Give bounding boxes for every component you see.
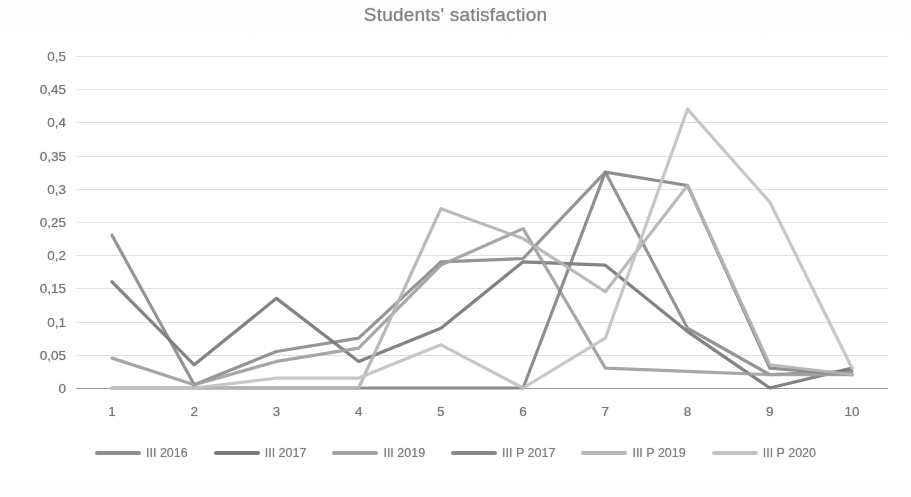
- legend-line-swatch: [95, 451, 141, 454]
- x-axis-tick-label: 9: [766, 404, 774, 419]
- legend-item-label: III P 2019: [632, 446, 685, 460]
- chart-legend: III 2016III 2017III 2019III P 2017III P …: [0, 446, 911, 460]
- y-axis-tick-label: 0,1: [47, 314, 66, 329]
- x-axis: 12345678910: [0, 398, 911, 428]
- x-axis-tick-label: 7: [602, 404, 610, 419]
- y-axis-tick-label: 0,35: [40, 148, 66, 163]
- y-axis-tick-label: 0,4: [47, 115, 66, 130]
- y-axis-tick-label: 0: [58, 381, 66, 396]
- y-axis-tick-label: 0,05: [40, 347, 66, 362]
- legend-item[interactable]: III P 2017: [451, 446, 555, 460]
- x-axis-tick-label: 4: [355, 404, 363, 419]
- legend-item[interactable]: III P 2019: [581, 446, 685, 460]
- legend-item[interactable]: III 2016: [95, 446, 188, 460]
- legend-line-swatch: [332, 451, 378, 454]
- series-line: [112, 262, 852, 388]
- legend-item-label: III 2019: [383, 446, 425, 460]
- chart-title: Students' satisfaction: [0, 4, 911, 26]
- chart-container: Students' satisfaction 0,50,450,40,350,3…: [0, 0, 911, 497]
- legend-line-swatch: [712, 451, 758, 454]
- legend-item-label: III 2016: [146, 446, 188, 460]
- legend-item-label: III P 2017: [502, 446, 555, 460]
- x-axis-tick-label: 2: [190, 404, 198, 419]
- legend-item-label: III P 2020: [763, 446, 816, 460]
- legend-line-swatch: [581, 451, 627, 454]
- x-axis-tick-label: 8: [684, 404, 692, 419]
- x-axis-tick-label: 6: [519, 404, 527, 419]
- series-line: [112, 172, 852, 388]
- legend-line-swatch: [214, 451, 260, 454]
- legend-item[interactable]: III 2019: [332, 446, 425, 460]
- x-axis-tick-label: 10: [844, 404, 859, 419]
- y-axis-tick-label: 0,2: [47, 248, 66, 263]
- legend-item-label: III 2017: [265, 446, 307, 460]
- y-axis-tick-label: 0,15: [40, 281, 66, 296]
- y-axis-tick-label: 0,25: [40, 215, 66, 230]
- x-axis-tick-label: 5: [437, 404, 445, 419]
- x-axis-tick-label: 3: [273, 404, 281, 419]
- y-axis-tick-label: 0,3: [47, 181, 66, 196]
- x-axis-tick-label: 1: [108, 404, 116, 419]
- legend-line-swatch: [451, 451, 497, 454]
- plot-area: [76, 56, 888, 388]
- series-lines: [76, 56, 888, 388]
- legend-item[interactable]: III P 2020: [712, 446, 816, 460]
- series-line: [112, 172, 852, 384]
- legend-item[interactable]: III 2017: [214, 446, 307, 460]
- y-axis-tick-label: 0,5: [47, 49, 66, 64]
- y-axis-tick-label: 0,45: [40, 82, 66, 97]
